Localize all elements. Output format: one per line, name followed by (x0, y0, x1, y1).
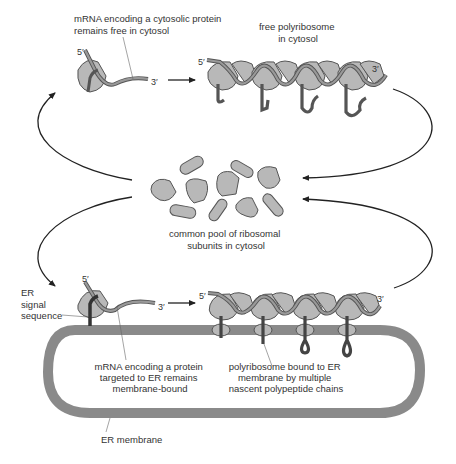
five-prime-label: 5′ (198, 57, 205, 67)
label-er-membrane: ER membrane (101, 434, 162, 445)
ribosome-cycle-diagram: mRNA encoding a cytosolic protein remain… (0, 0, 456, 464)
label-er-signal-sequence: ER signal sequence (21, 287, 62, 321)
free-polyribosome (207, 60, 386, 116)
three-prime-label: 3′ (372, 64, 379, 74)
ribosome-pool (151, 154, 285, 223)
five-prime-label: 5′ (77, 47, 84, 57)
er-membrane-leader (106, 418, 110, 432)
five-prime-label: 5′ (82, 274, 89, 284)
five-prime-label: 5′ (199, 291, 206, 301)
three-prime-label: 3′ (377, 294, 384, 304)
label-bound-polyribosome: polyribosome bound to ER membrane by mul… (229, 361, 344, 394)
three-prime-label: 3′ (151, 77, 158, 87)
cytosolic-mrna-ribosome (78, 37, 148, 92)
three-prime-label: 3′ (158, 302, 165, 312)
er-bound-mrna-ribosome (62, 282, 155, 360)
label-free-polyribosome: free polyribosome in cytosol (259, 21, 337, 44)
label-er-mrna: mRNA encoding a protein targeted to ER r… (95, 361, 206, 394)
label-ribosome-pool: common pool of ribosomal subunits in cyt… (169, 228, 283, 251)
label-cytosolic-mrna: mRNA encoding a cytosolic protein remain… (74, 13, 224, 36)
